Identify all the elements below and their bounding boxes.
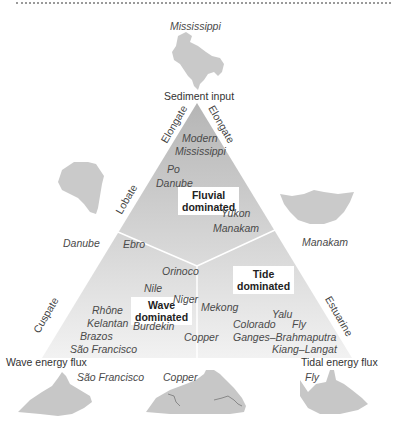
delta-label-copper: Copper	[184, 331, 218, 343]
delta-label-mekong: Mekong	[201, 301, 238, 313]
delta-label-modern: Modern	[182, 132, 218, 144]
delta-label-nile: Nile	[144, 282, 162, 294]
caption-mississippi: Mississippi	[170, 20, 221, 32]
delta-label-kelantan: Kelantan	[87, 317, 128, 329]
delta-label-yukon: Yukon	[221, 207, 250, 219]
delta-label-manakam: Manakam	[213, 222, 259, 234]
delta-label-orinoco: Orinoco	[162, 265, 199, 277]
caption-sao-francisco: São Francisco	[77, 371, 144, 383]
caption-fly: Fly	[305, 371, 319, 383]
danube-delta-map	[58, 162, 104, 214]
caption-manakam: Manakam	[302, 236, 348, 248]
delta-label-ebro: Ebro	[123, 238, 145, 250]
delta-label-sao-francisco: São Francisco	[70, 343, 137, 355]
mississippi-delta-map	[172, 32, 224, 90]
delta-label-mississippi: Mississippi	[175, 145, 226, 157]
caption-copper: Copper	[163, 371, 197, 383]
region-tide-line1: Tide	[237, 268, 290, 280]
delta-label-burdekin: Burdekin	[133, 320, 174, 332]
vertex-tidal-energy-flux: Tidal energy flux	[301, 356, 378, 368]
delta-label-po: Po	[167, 163, 180, 175]
vertex-wave-energy-flux: Wave energy flux	[6, 356, 87, 368]
delta-label-brazos: Brazos	[80, 330, 113, 342]
delta-classification-diagram	[0, 0, 395, 437]
vertex-sediment-input: Sediment input	[164, 90, 234, 102]
region-fluvial-line1: Fluvial	[182, 189, 235, 201]
delta-label-danube: Danube	[156, 177, 193, 189]
delta-label-ganges-brahmaputra: Ganges–Brahmaputra	[233, 331, 336, 343]
delta-label-fly: Fly	[292, 318, 306, 330]
delta-label-rhone: Rhône	[92, 304, 123, 316]
caption-danube: Danube	[63, 237, 100, 249]
delta-label-kiang-langat: Kiang–Langat	[272, 343, 337, 355]
manakam-delta-map	[280, 190, 354, 224]
delta-label-colorado: Colorado	[233, 318, 276, 330]
region-tide-dominated: Tide dominated	[233, 266, 294, 294]
region-tide-line2: dominated	[237, 280, 290, 292]
delta-label-niger: Niger	[173, 293, 198, 305]
